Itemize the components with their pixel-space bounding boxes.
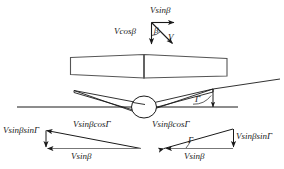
label-angle-beta: β — [154, 26, 158, 35]
wing-planform — [71, 55, 228, 79]
right-velocity-triangle — [164, 129, 234, 149]
label-left-vsinbeta: Vsinβ — [71, 152, 91, 161]
vector-diagram-figure: Vsinβ Vcosβ β V Γ VsinβsinΓ VsinβcosΓ Vs… — [0, 0, 284, 169]
left-vector-vsinbetacosgamma — [47, 131, 142, 149]
wing-dihedral-upper-right — [148, 89, 213, 104]
label-top-vcosbeta: Vcosβ — [114, 27, 136, 36]
right-vector-vsinbetacosgamma — [164, 129, 233, 149]
left-velocity-triangle — [46, 131, 141, 149]
label-right-vsinbeta: Vsinβ — [184, 152, 204, 161]
diagram-canvas — [0, 0, 284, 169]
label-left-vsinbetacosgamma: VsinβcosΓ — [73, 120, 111, 129]
dihedral-front-view — [17, 79, 280, 118]
label-right-angle-gamma: Γ — [188, 136, 193, 145]
label-right-vsinbetacosgamma: VsinβcosΓ — [152, 120, 190, 129]
wing-extension-right — [213, 79, 280, 89]
label-dihedral-angle-gamma: Γ — [195, 95, 200, 104]
label-left-vsinbetasingamma: VsinβsinΓ — [3, 126, 39, 135]
label-vector-v: V — [168, 33, 174, 42]
wing-left-panel — [71, 55, 145, 79]
wing-right-panel — [144, 55, 227, 79]
label-top-vsinbeta: Vsinβ — [150, 6, 170, 15]
label-right-vsinbetasingamma: VsinβsinΓ — [236, 132, 272, 141]
fuselage-circle — [132, 96, 157, 118]
